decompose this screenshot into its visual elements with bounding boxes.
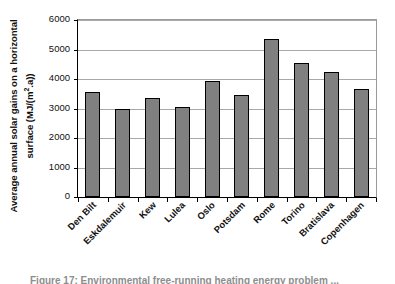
bar-slot [167, 20, 197, 197]
y-axis-tick-label: 3000 [49, 103, 70, 113]
y-axis-tick-label: 4000 [49, 73, 70, 83]
y-axis-tick-labels: 6000500040003000200010000 [44, 0, 74, 232]
y-axis-title: Average annual solar gains on a horizont… [8, 8, 36, 224]
x-axis-label-slot: Oslo [196, 198, 226, 276]
bar[interactable] [324, 72, 339, 197]
y-axis-tick-label: 0 [65, 191, 70, 201]
y-axis-tick-label: 6000 [49, 14, 70, 24]
y-axis-tick-label: 5000 [49, 44, 70, 54]
x-axis-category-label: Kew [137, 200, 158, 221]
bar-slot [138, 20, 168, 197]
y-axis-title-line1: Average annual solar gains on a horizont… [8, 19, 19, 212]
x-axis-category-label: Lulea [163, 200, 187, 224]
bar[interactable] [85, 92, 100, 197]
x-axis-label-slot: Torino [286, 198, 316, 276]
bar-slot [197, 20, 227, 197]
x-axis-label-slot: Kew [137, 198, 167, 276]
bar[interactable] [145, 98, 160, 197]
x-axis-label-slot: Rome [256, 198, 286, 276]
y-axis-title-wrapper: Average annual solar gains on a horizont… [0, 0, 44, 232]
bar[interactable] [234, 95, 249, 197]
bar[interactable] [205, 81, 220, 197]
bar[interactable] [264, 39, 279, 197]
bar-slot [346, 20, 376, 197]
plot-area [77, 19, 377, 198]
y-axis-tick-label: 1000 [49, 162, 70, 172]
bar-slot [287, 20, 317, 197]
bar-slot [108, 20, 138, 197]
x-axis-label-slot: Copenhagen [345, 198, 375, 276]
bar-slot [257, 20, 287, 197]
figure-caption: Figure 17: Environmental free-running he… [30, 275, 380, 284]
x-axis-tick-mark [376, 198, 377, 202]
bar-slot [227, 20, 257, 197]
x-axis-label-slot: Potsdam [226, 198, 256, 276]
y-axis-title-line2-pre: surface (MJ/(m [24, 92, 35, 159]
bars-group [78, 20, 376, 197]
bar[interactable] [294, 63, 309, 197]
bar[interactable] [115, 109, 130, 198]
x-axis-category-labels: Den BiltEskdalemuirKewLuleaOsloPotsdamRo… [77, 198, 375, 276]
x-axis-category-label: Rome [251, 200, 276, 225]
y-axis-title-line2-post: .a)) [24, 73, 35, 87]
y-axis-tick-label: 2000 [49, 132, 70, 142]
y-axis-title-superscript: 2 [22, 88, 29, 92]
x-axis-category-label: Oslo [195, 200, 217, 222]
x-axis-label-slot: Eskdalemuir [107, 198, 137, 276]
bar[interactable] [354, 89, 369, 197]
bar-slot [316, 20, 346, 197]
bar-slot [78, 20, 108, 197]
x-axis-label-slot: Lulea [166, 198, 196, 276]
bar[interactable] [175, 107, 190, 197]
